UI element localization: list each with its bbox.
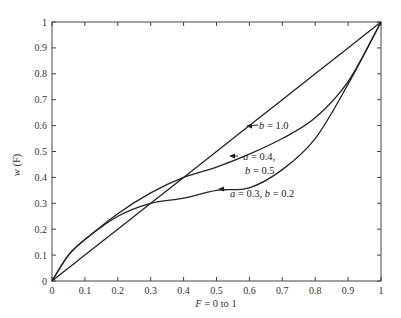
x-tick-label: 0.1 (79, 285, 92, 296)
curves (52, 22, 381, 281)
y-tick-label: 0.9 (35, 42, 48, 53)
x-tick-label: 0.8 (309, 285, 322, 296)
x-tick-label: 0.3 (144, 285, 157, 296)
annotation-b1: b = 1.0 (246, 120, 289, 131)
annotation-a04-b05: a = 0.4, b = 0.5 (229, 151, 275, 176)
y-tick-label: 0.8 (35, 68, 48, 79)
y-tick-label: 1 (42, 17, 47, 28)
x-tick-label: 0.5 (210, 285, 223, 296)
annotation-a03-b02: a = 0.3, b = 0.2 (218, 187, 294, 200)
y-tick-label: 0.3 (35, 198, 48, 209)
x-tick-label: 0.2 (112, 285, 125, 296)
curve-0 (52, 22, 381, 281)
y-axis-title: w (F) (11, 153, 23, 176)
y-tick-label: 0.6 (35, 120, 48, 131)
x-tick-label: 0 (50, 285, 55, 296)
arrow-icon (218, 187, 224, 192)
x-tick-label: 0.4 (177, 285, 190, 296)
y-tick-label: 0.2 (35, 224, 48, 235)
svg-text:a = 0.3, b = 0.2: a = 0.3, b = 0.2 (230, 188, 294, 199)
y-tick-label: 0.7 (35, 94, 48, 105)
y-tick-label: 0.4 (35, 172, 48, 183)
svg-text:b = 0.5: b = 0.5 (245, 165, 275, 176)
chart: 00.10.20.30.40.50.60.70.80.9100.10.20.30… (0, 0, 401, 318)
x-tick-label: 1 (379, 285, 384, 296)
y-tick-label: 0 (42, 276, 47, 287)
y-tick-label: 0.1 (35, 250, 48, 261)
x-tick-label: 0.9 (342, 285, 355, 296)
x-tick-label: 0.7 (276, 285, 289, 296)
y-tick-label: 0.5 (35, 146, 48, 157)
svg-text:a = 0.4,: a = 0.4, (243, 151, 275, 162)
x-tick-label: 0.6 (243, 285, 256, 296)
svg-text:b = 1.0: b = 1.0 (259, 120, 289, 131)
x-axis-title: F = 0 to 1 (194, 298, 237, 309)
arrow-icon (229, 154, 235, 159)
